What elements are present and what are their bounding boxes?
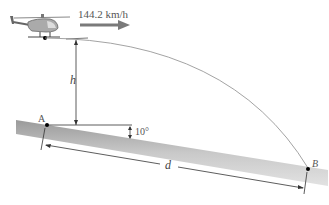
inclined-ground	[16, 120, 328, 186]
projectile-diagram: 144.2 km/h h 10° A B d	[0, 0, 329, 205]
speed-label: 144.2 km/h	[78, 9, 128, 20]
angle-label: 10°	[135, 127, 149, 137]
velocity-arrow-icon	[80, 20, 130, 30]
point-b-label: B	[312, 159, 318, 169]
distance-label: d	[165, 159, 171, 171]
angle-indicator	[128, 126, 132, 139]
point-b	[306, 167, 310, 171]
point-a	[45, 123, 49, 127]
point-a-label: A	[38, 114, 45, 124]
diagram-graphics	[0, 0, 329, 205]
height-label: h	[70, 74, 76, 86]
helicopter-icon	[10, 14, 70, 37]
